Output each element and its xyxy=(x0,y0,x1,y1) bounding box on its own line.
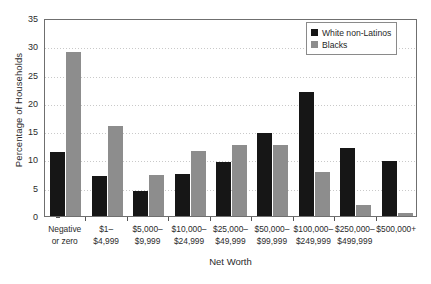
bar[interactable] xyxy=(50,152,65,216)
x-axis-tick-marks xyxy=(44,217,417,222)
legend-swatch xyxy=(311,29,318,36)
x-category-label: $100,000–$249,999 xyxy=(293,224,334,247)
x-category-label: $1–$4,999 xyxy=(85,224,126,247)
x-axis-title: Net Worth xyxy=(44,256,417,267)
x-tick-mark xyxy=(293,217,294,221)
x-category-label-line2: $24,999 xyxy=(168,236,209,248)
x-category-label: $50,000–$99,999 xyxy=(251,224,292,247)
bar[interactable] xyxy=(108,126,123,216)
x-category-label-line2: $249,999 xyxy=(293,236,334,248)
bar[interactable] xyxy=(149,175,164,216)
bar-chart: Percentage of Households 05101520253035 … xyxy=(0,0,431,284)
x-category-label-line1: $25,000– xyxy=(213,224,248,234)
x-category-label: $250,000–$499,999 xyxy=(334,224,375,247)
bar[interactable] xyxy=(232,145,247,216)
bar-group xyxy=(92,20,123,216)
bar-group xyxy=(133,20,164,216)
bar-group xyxy=(175,20,206,216)
y-tick-label: 0 xyxy=(16,212,38,222)
chart-legend: White non-LatinosBlacks xyxy=(306,22,397,55)
legend-label: Blacks xyxy=(322,40,347,50)
x-tick-mark xyxy=(251,217,252,221)
x-tick-mark xyxy=(168,217,169,221)
x-axis-category-labels: Negativeor zero$1–$4,999$5,000–$9,999$10… xyxy=(44,224,417,250)
x-tick-mark xyxy=(210,217,211,221)
bar[interactable] xyxy=(340,148,355,216)
x-category-label-line1: $1– xyxy=(99,224,113,234)
y-axis-tick-labels: 05101520253035 xyxy=(16,14,38,220)
x-category-label-line2: $4,999 xyxy=(85,236,126,248)
bar-group xyxy=(257,20,288,216)
x-category-label-line2: $9,999 xyxy=(127,236,168,248)
bar[interactable] xyxy=(398,213,413,216)
bar[interactable] xyxy=(175,174,190,216)
x-category-label-line2: $99,999 xyxy=(251,236,292,248)
bar[interactable] xyxy=(133,191,148,216)
x-category-label-line2: $499,999 xyxy=(334,236,375,248)
x-tick-mark xyxy=(127,217,128,221)
legend-swatch xyxy=(311,41,318,48)
y-tick-label: 10 xyxy=(16,155,38,165)
x-category-label-line1: $250,000– xyxy=(335,224,375,234)
bar-group xyxy=(216,20,247,216)
bar[interactable] xyxy=(299,92,314,216)
bar[interactable] xyxy=(273,145,288,216)
bar[interactable] xyxy=(66,52,81,216)
bar[interactable] xyxy=(356,205,371,216)
bar[interactable] xyxy=(191,151,206,216)
bar[interactable] xyxy=(257,133,272,216)
legend-item[interactable]: Blacks xyxy=(311,39,391,50)
x-category-label-line2: or zero xyxy=(44,236,85,248)
bar[interactable] xyxy=(315,172,330,216)
x-category-label: $25,000–$49,999 xyxy=(210,224,251,247)
y-tick-label: 25 xyxy=(16,71,38,81)
bar[interactable] xyxy=(382,161,397,216)
legend-label: White non-Latinos xyxy=(322,28,391,38)
y-tick-label: 5 xyxy=(16,184,38,194)
x-category-label: $10,000–$24,999 xyxy=(168,224,209,247)
y-tick-label: 15 xyxy=(16,127,38,137)
y-tick-label: 20 xyxy=(16,99,38,109)
x-category-label-line1: $5,000– xyxy=(132,224,162,234)
bar[interactable] xyxy=(216,162,231,216)
x-category-label-line1: Negative xyxy=(48,224,81,234)
y-tick-label: 30 xyxy=(16,42,38,52)
x-category-label: Negativeor zero xyxy=(44,224,85,247)
x-tick-mark xyxy=(85,217,86,221)
legend-item[interactable]: White non-Latinos xyxy=(311,27,391,38)
x-category-label-line2: $49,999 xyxy=(210,236,251,248)
x-category-label: $500,000+ xyxy=(376,224,417,236)
x-tick-mark xyxy=(334,217,335,221)
x-category-label-line1: $10,000– xyxy=(172,224,207,234)
x-category-label-line1: $100,000– xyxy=(294,224,334,234)
x-category-label: $5,000–$9,999 xyxy=(127,224,168,247)
x-category-label-line1: $50,000– xyxy=(254,224,289,234)
x-tick-mark xyxy=(376,217,377,221)
y-tick-label: 35 xyxy=(16,14,38,24)
x-category-label-line1: $500,000+ xyxy=(376,224,416,234)
bar[interactable] xyxy=(92,176,107,216)
bar-group xyxy=(50,20,81,216)
